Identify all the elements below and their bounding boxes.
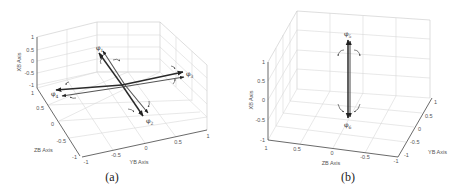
- tick-label: 0.5: [36, 105, 44, 111]
- figure-canvas: 1 0.5 0 -0.5 -1 XB Axis 1 0.5 0 -0.5 -1 …: [0, 0, 458, 194]
- panel-b-caption: (b): [341, 170, 355, 184]
- vector-label-phi2: φ2: [146, 117, 154, 126]
- panel-b-horizontal-axis-label: YB Axis: [428, 149, 447, 155]
- vector-label-phi4: φ4: [51, 90, 59, 99]
- tick-label: 0.5: [425, 113, 433, 119]
- tick-label: 1: [31, 34, 34, 40]
- tick-label: -1: [260, 137, 265, 143]
- panel-a-vectors: φ1 φ2 φ3 φ4: [51, 44, 194, 126]
- tick-label: 0: [144, 145, 147, 151]
- tick-label: -0.5: [25, 70, 34, 76]
- tick-label: 0: [262, 97, 265, 103]
- tick-label: 0: [330, 150, 333, 156]
- tick-label: 0.5: [26, 47, 34, 53]
- tick-label: -0.5: [57, 138, 66, 144]
- tick-label: -0.5: [410, 139, 419, 145]
- vector-label-phi1: φ1: [96, 44, 104, 53]
- panel-a: 1 0.5 0 -0.5 -1 XB Axis 1 0.5 0 -0.5 -1 …: [16, 22, 210, 184]
- tick-label: -1: [84, 159, 89, 165]
- tick-label: -1: [29, 82, 34, 88]
- tick-label: -1: [394, 158, 399, 164]
- tick-label: 0: [51, 121, 54, 127]
- vector-label-phi3: φ3: [186, 70, 194, 79]
- tick-label: 0: [418, 126, 421, 132]
- panel-b-vectors: φ5 φ6: [338, 30, 360, 130]
- tick-label: 1: [264, 145, 267, 151]
- panel-a-horizontal-axis-label: YB Axis: [130, 159, 149, 165]
- tick-label: 0.5: [257, 78, 265, 84]
- tick-label: -0.5: [111, 152, 120, 158]
- tick-label: 1: [434, 99, 437, 105]
- tick-label: 1: [31, 90, 34, 96]
- tick-label: -0.5: [256, 117, 265, 123]
- panel-b-depth-axis-label: ZB Axis: [322, 160, 341, 166]
- vector-label-phi5: φ5: [344, 30, 352, 39]
- panel-b-vertical-axis-label: XB Axis: [248, 90, 254, 109]
- panel-a-vertical-axis-label: XB Axis: [16, 52, 22, 71]
- panel-a-caption: (a): [105, 170, 118, 184]
- panel-a-vertical-ticks: 1 0.5 0 -0.5 -1: [25, 34, 34, 88]
- tick-label: 0: [31, 58, 34, 64]
- vector-label-phi6: φ6: [344, 121, 352, 130]
- panel-b: 1 0.5 0 -0.5 -1 XB Axis 1 0.5 0 -0.5 -1 …: [248, 11, 447, 184]
- panel-a-depth-axis-label: ZB Axis: [34, 147, 53, 153]
- panel-b-grid: [268, 11, 430, 153]
- tick-label: 0.5: [174, 139, 182, 145]
- tick-label: -1: [72, 154, 77, 160]
- panel-b-vertical-ticks: 1 0.5 0 -0.5 -1: [256, 59, 265, 143]
- tick-label: -0.5: [360, 154, 369, 160]
- tick-label: 0.5: [293, 146, 301, 152]
- tick-label: 1: [262, 59, 265, 65]
- tick-label: -1: [404, 152, 409, 158]
- tick-label: 1: [206, 133, 209, 139]
